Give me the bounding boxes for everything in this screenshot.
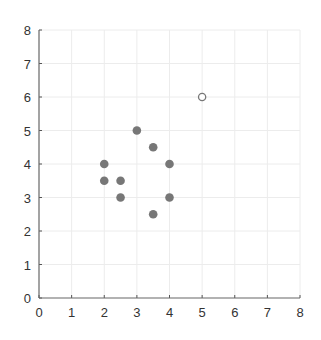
filled-point [116,176,125,185]
scatter-chart: 012345678 012345678 [0,0,321,340]
filled-point [149,210,158,219]
y-tick-label: 0 [24,291,31,306]
x-tick-label: 5 [199,305,206,320]
y-tick-labels: 012345678 [24,23,31,306]
x-tick-label: 6 [231,305,238,320]
y-tick-label: 6 [24,90,31,105]
data-points [100,93,206,218]
filled-point [165,160,174,169]
x-tick-label: 4 [166,305,173,320]
y-tick-label: 8 [24,23,31,38]
hollow-point [199,93,206,100]
filled-point [116,193,125,202]
x-tick-labels: 012345678 [35,305,303,320]
filled-point [149,143,158,152]
filled-point [165,193,174,202]
x-tick-label: 1 [68,305,75,320]
y-tick-label: 3 [24,191,31,206]
x-tick-label: 8 [296,305,303,320]
y-tick-label: 7 [24,57,31,72]
x-tick-label: 2 [101,305,108,320]
x-tick-label: 0 [35,305,42,320]
filled-point [133,126,142,135]
y-tick-label: 4 [24,157,31,172]
x-tick-label: 3 [133,305,140,320]
filled-point [100,160,109,169]
y-tick-label: 5 [24,124,31,139]
filled-point [100,176,109,185]
x-tick-label: 7 [264,305,271,320]
y-tick-label: 2 [24,224,31,239]
y-tick-label: 1 [24,258,31,273]
